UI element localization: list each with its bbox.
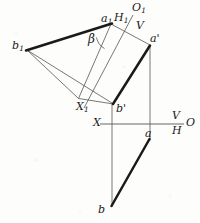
label-X: X [93, 117, 101, 128]
label-beta-angle: β [88, 33, 95, 45]
label-a-low: a [145, 128, 152, 139]
label-a1: a1 [101, 13, 112, 25]
geometry-figure: a1 H1 O1 V b1 β a' X1 b' X V H O a b [0, 0, 200, 223]
line-b1-to-aux-corner [27, 50, 79, 99]
label-b1: b1 [12, 40, 24, 52]
label-a-prime: a' [150, 33, 160, 44]
label-H1: H1 [114, 12, 129, 24]
label-X1: X1 [76, 101, 89, 113]
label-b-low: b [98, 204, 105, 215]
label-H-right: H [172, 125, 182, 136]
line-b-a-top-view [112, 139, 150, 206]
line-b1-a1-true-length [26, 24, 112, 51]
figure-drawing [0, 0, 200, 223]
beta-angle-arc [97, 38, 105, 49]
label-b-prime: b' [116, 103, 126, 114]
label-O: O [186, 117, 195, 128]
label-O1: O1 [132, 2, 146, 14]
label-V-upper: V [136, 20, 144, 31]
label-V-right: V [172, 110, 180, 121]
line-aprime-bprime-front-view [113, 46, 150, 105]
line-a1-to-aprime [111, 24, 150, 45]
